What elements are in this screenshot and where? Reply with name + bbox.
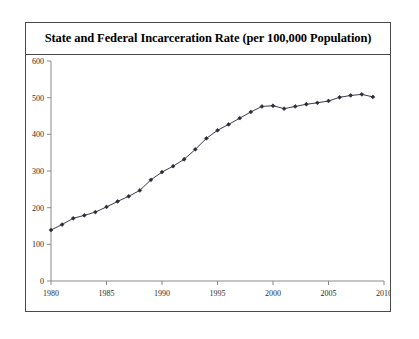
data-point-marker: [293, 105, 297, 109]
data-point-marker: [249, 110, 253, 114]
x-tick-label: 1985: [99, 289, 115, 298]
x-tick-label: 1980: [43, 289, 59, 298]
data-point-marker: [49, 228, 53, 232]
chart-title-bar: State and Federal Incarceration Rate (pe…: [26, 23, 390, 55]
chart-figure: State and Federal Incarceration Rate (pe…: [25, 22, 391, 312]
data-point-marker: [127, 194, 131, 198]
y-tick-label: 400: [32, 130, 44, 139]
x-tick-label: 1995: [210, 289, 226, 298]
x-axis: 1980198519901995200020052010: [43, 281, 390, 298]
page-title: State and Federal Incarceration Rate (pe…: [45, 31, 372, 46]
x-tick-label: 2005: [321, 289, 337, 298]
data-point-marker: [227, 123, 231, 127]
data-series-line: [51, 94, 373, 230]
x-tick-label: 2010: [376, 289, 390, 298]
data-point-marker: [71, 216, 75, 220]
line-chart-svg: 0100200300400500600 19801985199019952000…: [26, 55, 390, 311]
y-tick-label: 0: [40, 277, 44, 286]
data-point-marker: [316, 101, 320, 105]
y-tick-label: 100: [32, 240, 44, 249]
data-point-marker: [338, 95, 342, 99]
data-point-marker: [271, 104, 275, 108]
data-point-marker: [282, 107, 286, 111]
data-point-marker: [116, 200, 120, 204]
y-tick-label: 300: [32, 167, 44, 176]
plot-area: 0100200300400500600 19801985199019952000…: [26, 55, 390, 311]
data-point-marker: [327, 99, 331, 103]
data-point-marker: [94, 210, 98, 214]
data-point-marker: [360, 92, 364, 96]
data-point-marker: [371, 95, 375, 99]
x-tick-label: 1990: [154, 289, 170, 298]
data-point-marker: [260, 105, 264, 109]
data-point-marker: [82, 213, 86, 217]
y-tick-label: 500: [32, 94, 44, 103]
data-point-marker: [349, 94, 353, 98]
data-point-marker: [60, 223, 64, 227]
data-point-marker: [304, 102, 308, 106]
x-tick-label: 2000: [265, 289, 281, 298]
data-point-marker: [105, 205, 109, 209]
data-point-marker: [238, 116, 242, 120]
y-tick-label: 200: [32, 204, 44, 213]
y-axis: 0100200300400500600: [32, 57, 51, 286]
y-tick-label: 600: [32, 57, 44, 66]
